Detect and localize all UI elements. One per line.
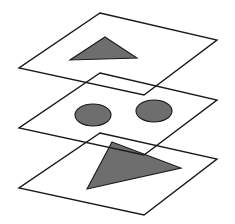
layer-middle <box>19 73 217 155</box>
right-ellipse <box>136 100 172 122</box>
middle-plane <box>19 73 217 155</box>
diagram-canvas <box>0 0 235 224</box>
layer-top <box>19 13 217 95</box>
small-triangle <box>70 37 137 60</box>
left-ellipse <box>75 104 111 126</box>
large-triangle <box>87 142 181 189</box>
layered-planes-diagram <box>0 0 235 224</box>
layer-bottom <box>19 133 217 215</box>
